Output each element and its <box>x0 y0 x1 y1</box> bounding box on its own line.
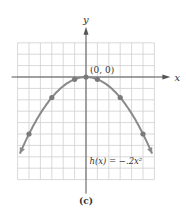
x-axis-label: x <box>174 72 180 83</box>
function-label: h(x) = −.2x² <box>89 156 142 166</box>
origin-label: (0, 0) <box>90 65 114 75</box>
parabola-chart: y x (0, 0) h(x) = −.2x² <box>0 0 186 221</box>
figure-caption: (c) <box>0 196 172 206</box>
y-axis-label: y <box>82 14 89 25</box>
